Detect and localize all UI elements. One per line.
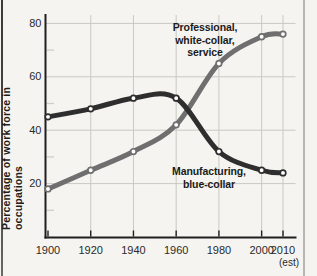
y-tick-label: 40: [29, 124, 41, 136]
x-tick-label: 1980: [207, 244, 231, 256]
y-tick-label: 20: [29, 177, 41, 189]
data-point-manufacturing: [216, 149, 222, 155]
data-point-professional: [173, 122, 179, 128]
x-est-note: (est): [279, 257, 299, 268]
x-tick-label: 1920: [78, 244, 102, 256]
data-point-professional: [88, 167, 94, 173]
x-tick-label: 1940: [121, 244, 145, 256]
y-axis-title: Percentage of work force in occupations: [3, 28, 20, 230]
series-label-manufacturing: Manufacturing, blue-collar: [172, 165, 246, 190]
x-tick-label: 2010: [271, 244, 295, 256]
data-point-professional: [131, 149, 137, 155]
data-point-manufacturing: [88, 106, 94, 112]
data-point-manufacturing: [280, 170, 286, 176]
data-point-professional: [259, 34, 265, 40]
page-edge-right: [303, 0, 305, 276]
data-point-professional: [280, 31, 286, 37]
x-tick-label: 1900: [36, 244, 60, 256]
scanned-chart-figure: 204060801900192019401960198020002010(est…: [0, 0, 317, 276]
y-tick-label: 80: [29, 17, 41, 29]
x-tick-label: 1960: [164, 244, 188, 256]
data-point-professional: [216, 61, 222, 67]
chart-canvas: 204060801900192019401960198020002010(est…: [0, 0, 317, 276]
data-point-manufacturing: [131, 95, 137, 101]
y-tick-label: 60: [29, 70, 41, 82]
series-label-professional: Professional, white-collar, service: [173, 21, 238, 59]
data-point-manufacturing: [173, 95, 179, 101]
data-point-manufacturing: [45, 114, 51, 120]
data-point-professional: [45, 186, 51, 192]
data-point-manufacturing: [259, 167, 265, 173]
